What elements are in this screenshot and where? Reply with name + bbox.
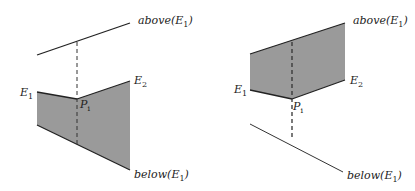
left-above-line (37, 23, 130, 55)
right-shaded-region (250, 23, 345, 99)
left-below-label: below(E1) (134, 168, 189, 183)
right-e2-label: E2 (349, 74, 363, 89)
left-e2-label: E2 (133, 74, 147, 89)
right-e1-label: E1 (233, 83, 247, 98)
right-above-label: above(E1) (353, 14, 408, 29)
right-below-line (250, 124, 343, 172)
left-e1-label: E1 (19, 86, 33, 101)
right-figure: above(E1) below(E1) E1 E2 Pi (233, 14, 408, 184)
right-below-label: below(E1) (347, 169, 402, 184)
right-p-label: Pi (292, 100, 303, 115)
left-figure: above(E1) below(E1) E1 E2 Pi (19, 14, 193, 183)
left-above-label: above(E1) (138, 14, 193, 29)
diagram-canvas: above(E1) below(E1) E1 E2 Pi above(E1) b… (0, 0, 415, 191)
